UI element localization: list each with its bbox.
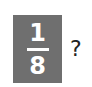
- fraction-numerator: 1: [29, 21, 46, 45]
- fraction-tile: 1 8: [13, 15, 62, 83]
- fraction-bar: [27, 48, 49, 51]
- fraction-denominator: 8: [29, 54, 46, 78]
- question-mark: ?: [70, 36, 82, 62]
